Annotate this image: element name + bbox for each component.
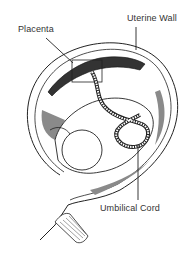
uterus-diagram	[0, 0, 193, 272]
placenta-label: Placenta	[18, 24, 54, 34]
umbilical-cord-label: Umbilical Cord	[100, 203, 160, 213]
uterine-wall-label: Uterine Wall	[127, 13, 177, 23]
amniotic-fluid-shade-right	[155, 90, 165, 145]
placenta-leader	[46, 38, 73, 63]
fetus-head	[62, 130, 102, 170]
cervix	[55, 213, 88, 242]
